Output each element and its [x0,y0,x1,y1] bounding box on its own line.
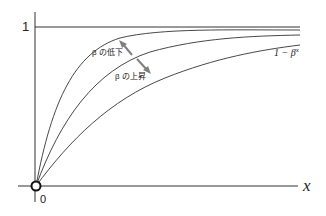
curve-fast [36,30,300,186]
curve-middle [36,35,300,186]
curve-formula-base: 1 − β [274,47,296,58]
y-tick-one: 1 [22,19,29,34]
curve-formula-exponent: x [295,46,300,54]
label-beta-increase: β の上昇 [115,72,146,81]
origin-label: 0 [40,193,46,205]
x-axis-label: x [302,176,311,195]
diagram-canvas: 1 0 x β の低下 β の上昇 1 − βx [0,0,326,216]
origin-point [32,182,41,191]
curve-slow [36,45,300,186]
label-beta-decrease: β の低下 [92,47,123,57]
curve-formula-label: 1 − βx [274,46,300,58]
